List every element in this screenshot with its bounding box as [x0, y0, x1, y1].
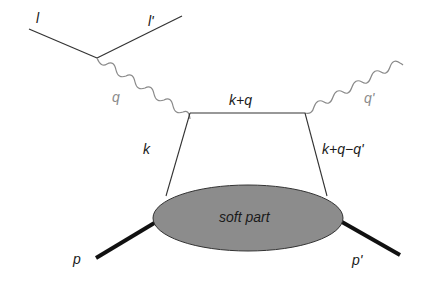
label-lepton-out: l': [148, 13, 155, 29]
parton-k-line: [166, 113, 190, 196]
lepton-out-line: [97, 16, 182, 58]
label-lepton-in: l: [36, 10, 40, 26]
lepton-in-line: [29, 29, 97, 58]
photon-q-prime-line: [305, 61, 403, 113]
proton-out-line: [342, 222, 400, 255]
label-parton-out: k+q−q': [322, 141, 365, 157]
proton-in-line: [96, 222, 156, 258]
label-photon-q-prime: q': [364, 90, 376, 106]
label-photon-q: q: [112, 89, 120, 105]
label-proton-in: p: [72, 251, 81, 267]
label-propagator: k+q: [229, 92, 252, 108]
photon-q-line: [97, 58, 190, 119]
label-parton-k: k: [143, 141, 151, 157]
label-proton-out: p': [351, 252, 364, 268]
label-soft-part: soft part: [219, 209, 271, 225]
feynman-diagram: l l' q k+q q' k k+q−q' soft part p p': [0, 0, 425, 286]
